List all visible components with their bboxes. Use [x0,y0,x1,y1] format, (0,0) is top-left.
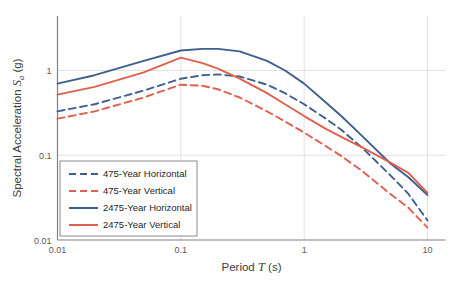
x-axis-title: Period T (s) [222,260,282,274]
legend-label: 2475-Year Horizontal [103,202,192,213]
legend: 475-Year Horizontal475-Year Vertical2475… [60,161,197,236]
y-tick-label: 0.1 [39,151,52,161]
chart-svg: 0.010.111010.10.01 Period T (s)Spectral … [0,0,452,294]
x-tick-label: 0.01 [49,245,67,255]
legend-label: 2475-Year Vertical [103,219,180,230]
legend-label: 475-Year Horizontal [103,168,187,179]
x-tick-label: 10 [422,245,432,255]
x-tick-label: 0.1 [175,245,188,255]
y-axis-title: Spectral Acceleration Sa (g) [10,58,26,197]
spectral-acceleration-chart: 0.010.111010.10.01 Period T (s)Spectral … [0,0,452,294]
y-tick-label: 0.01 [34,236,52,246]
x-tick-label: 1 [302,245,307,255]
legend-label: 475-Year Vertical [103,185,175,196]
y-tick-label: 1 [46,66,51,76]
